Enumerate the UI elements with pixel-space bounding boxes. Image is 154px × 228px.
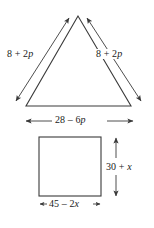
triangle-base-label: 28 – 6p [52,115,89,125]
square-height-constant: 30 + [106,161,127,172]
triangle-base-variable: p [81,114,86,125]
triangle-left-side-constant: 8 + 2 [7,48,28,59]
triangle-right-side-variable: p [117,48,122,59]
triangle-left-side-variable: p [28,48,33,59]
square-shape [39,137,101,196]
triangle-right-dimension-arrow [87,18,141,101]
triangle-right-side-constant: 8 + 2 [96,48,117,59]
square-width-constant: 45 – 2 [49,198,75,209]
triangle-base-constant: 28 – 6 [55,114,81,125]
square-width-label: 45 – 2x [47,199,81,209]
triangle-left-side-label: 8 + 2p [6,49,34,59]
triangle-left-dimension-arrow [16,18,69,101]
square-height-label: 30 + x [104,161,134,173]
geometry-figure-canvas: 8 + 2p 8 + 2p 28 – 6p 30 + x 45 – 2x [0,0,154,228]
square-width-variable: x [75,198,80,209]
triangle-right-side-label: 8 + 2p [95,49,123,59]
square-height-variable: x [127,161,132,172]
